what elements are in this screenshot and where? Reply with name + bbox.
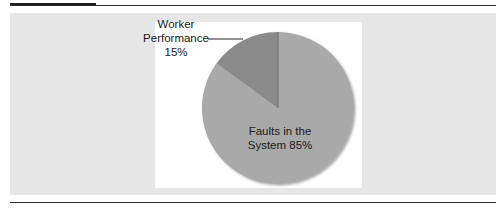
- label-value: 15%: [135, 45, 217, 59]
- worker-performance-label: Worker Performance 15%: [135, 17, 217, 59]
- pie-chart: [0, 0, 503, 208]
- faults-in-system-label: Faults in the System 85%: [230, 124, 330, 152]
- label-line: Performance: [135, 31, 217, 45]
- label-line: Faults in the: [230, 124, 330, 138]
- label-line: System 85%: [230, 138, 330, 152]
- bottom-rule: [10, 202, 496, 203]
- label-line: Worker: [135, 17, 217, 31]
